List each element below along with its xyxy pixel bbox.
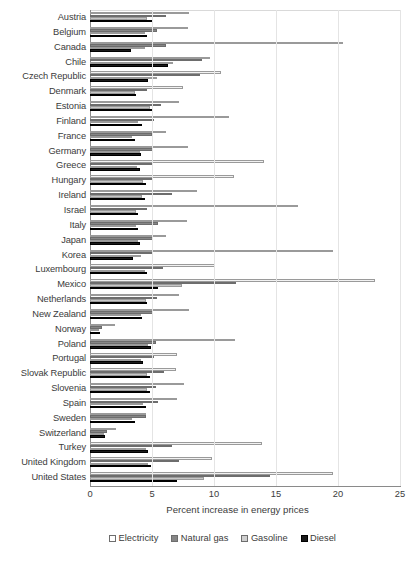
y-axis-label-slovak-republic: Slovak Republic <box>0 368 86 378</box>
bar-diesel <box>90 450 148 452</box>
bar-diesel <box>90 153 141 155</box>
legend-swatch-diesel-icon <box>301 535 308 542</box>
bar-rows <box>90 10 400 485</box>
y-axis-label-sweden: Sweden <box>0 413 86 423</box>
y-axis-label-finland: Finland <box>0 116 86 126</box>
y-axis-label-united-kingdom: United Kingdom <box>0 457 86 467</box>
gridline-5 <box>152 10 153 486</box>
plot-area <box>90 10 400 485</box>
y-axis-label-canada: Canada <box>0 42 86 52</box>
y-axis-label-portugal: Portugal <box>0 353 86 363</box>
bar-diesel <box>90 109 153 111</box>
bar-diesel <box>90 257 133 259</box>
bar-group-estonia <box>90 99 400 114</box>
x-tick-15: 15 <box>271 489 281 500</box>
legend-label: Gasoline <box>251 533 288 543</box>
bar-diesel <box>90 435 105 437</box>
bar-group-switzerland <box>90 426 400 441</box>
x-tick-0: 0 <box>87 489 92 500</box>
legend-swatch-electricity-icon <box>109 535 116 542</box>
bar-group-czech-republic <box>90 69 400 84</box>
legend-item-gasoline[interactable]: Gasoline <box>241 533 287 543</box>
bar-diesel <box>90 376 150 378</box>
bar-diesel <box>90 272 147 274</box>
bar-diesel <box>90 49 131 51</box>
bar-group-united-states <box>90 470 400 485</box>
legend-item-electricity[interactable]: Electricity <box>109 533 158 543</box>
bar-group-sweden <box>90 411 400 426</box>
x-axis-line <box>90 486 401 487</box>
bar-diesel <box>90 79 148 81</box>
bar-diesel <box>90 242 140 244</box>
bar-diesel <box>90 465 151 467</box>
bar-group-belgium <box>90 25 400 40</box>
y-axis-label-korea: Korea <box>0 250 86 260</box>
legend-label: Electricity <box>119 533 159 543</box>
bar-group-luxembourg <box>90 262 400 277</box>
bar-group-chile <box>90 55 400 70</box>
legend-label: Natural gas <box>181 533 229 543</box>
bar-group-turkey <box>90 440 400 455</box>
bar-group-poland <box>90 337 400 352</box>
bar-diesel <box>90 346 151 348</box>
bar-diesel <box>90 183 146 185</box>
bar-diesel <box>90 124 142 126</box>
bar-diesel <box>90 480 177 482</box>
y-axis-label-ireland: Ireland <box>0 190 86 200</box>
figure-container: AustriaBelgiumCanadaChileCzech RepublicD… <box>0 0 415 563</box>
y-axis-label-belgium: Belgium <box>0 27 86 37</box>
bar-diesel <box>90 64 168 66</box>
y-axis-label-chile: Chile <box>0 57 86 67</box>
bar-diesel <box>90 94 136 96</box>
bar-group-greece <box>90 158 400 173</box>
legend-swatch-gasoline-icon <box>241 535 248 542</box>
bar-diesel <box>90 406 146 408</box>
y-axis-label-new-zealand: New Zealand <box>0 309 86 319</box>
bar-group-israel <box>90 203 400 218</box>
y-axis-label-turkey: Turkey <box>0 442 86 452</box>
bar-diesel <box>90 391 150 393</box>
x-axis-title: Percent increase in energy prices <box>0 504 415 515</box>
x-tick-10: 10 <box>209 489 219 500</box>
bar-group-germany <box>90 144 400 159</box>
bar-group-portugal <box>90 351 400 366</box>
gridline-10 <box>214 10 215 486</box>
y-axis-label-norway: Norway <box>0 324 86 334</box>
bar-group-netherlands <box>90 292 400 307</box>
x-tick-25: 25 <box>395 489 405 500</box>
x-tick-5: 5 <box>149 489 154 500</box>
bar-group-slovak-republic <box>90 366 400 381</box>
y-axis-label-hungary: Hungary <box>0 175 86 185</box>
bar-group-korea <box>90 248 400 263</box>
bar-diesel <box>90 332 100 334</box>
y-axis-label-germany: Germany <box>0 146 86 156</box>
bar-diesel <box>90 302 147 304</box>
bar-group-new-zealand <box>90 307 400 322</box>
bar-diesel <box>90 317 142 319</box>
y-axis-label-netherlands: Netherlands <box>0 294 86 304</box>
legend-item-gas[interactable]: Natural gas <box>171 533 228 543</box>
bar-diesel <box>90 198 145 200</box>
bar-group-japan <box>90 233 400 248</box>
bar-diesel <box>90 20 152 22</box>
y-axis-label-france: France <box>0 131 86 141</box>
legend-item-diesel[interactable]: Diesel <box>301 533 336 543</box>
bar-diesel <box>90 35 147 37</box>
bar-group-canada <box>90 40 400 55</box>
bar-group-hungary <box>90 173 400 188</box>
bar-group-denmark <box>90 84 400 99</box>
y-axis-label-mexico: Mexico <box>0 279 86 289</box>
legend-label: Diesel <box>310 533 336 543</box>
bar-group-italy <box>90 218 400 233</box>
y-axis-label-austria: Austria <box>0 12 86 22</box>
legend-swatch-gas-icon <box>171 535 178 542</box>
gridline-20 <box>338 10 339 486</box>
x-tick-20: 20 <box>333 489 343 500</box>
gridline-25 <box>400 10 401 486</box>
bar-group-ireland <box>90 188 400 203</box>
y-axis-label-greece: Greece <box>0 160 86 170</box>
bar-diesel <box>90 361 143 363</box>
y-axis-label-united-states: United States <box>0 472 86 482</box>
y-axis-label-estonia: Estonia <box>0 101 86 111</box>
bar-diesel <box>90 421 135 423</box>
